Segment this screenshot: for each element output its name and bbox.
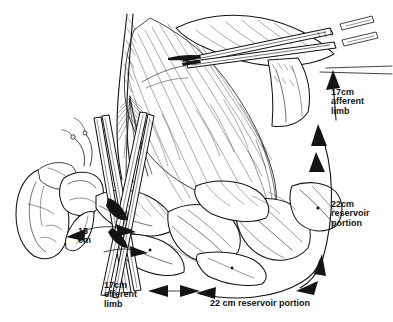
label-afferent-limb: 17cm afferent limb	[331, 88, 364, 116]
surgical-illustration: .s{fill:none;stroke:#141414;stroke-linec…	[0, 0, 393, 322]
illustration-canvas: .s{fill:none;stroke:#141414;stroke-linec…	[0, 0, 393, 322]
label-reservoir-right: 22cm reservoir portion	[331, 200, 370, 228]
label-reservoir-bottom: 22 cm reservoir portion	[210, 299, 310, 308]
label-efferent-limb: 17cm efferent limb	[104, 281, 137, 309]
label-ureter-15cm: 15 cm	[78, 227, 91, 246]
